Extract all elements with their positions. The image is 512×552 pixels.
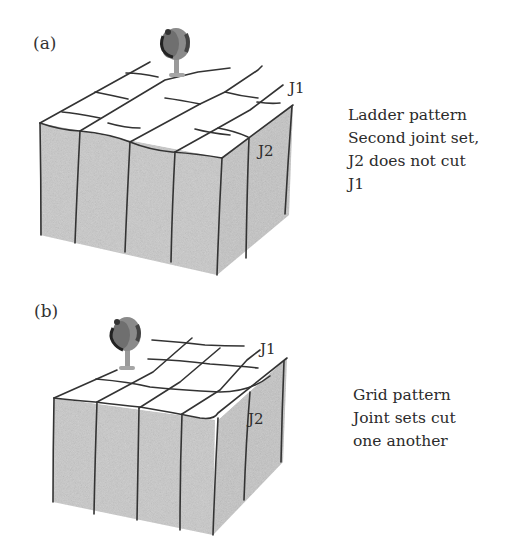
block-a: [40, 62, 293, 275]
caption-b-line-1: Grid pattern: [353, 384, 456, 407]
caption-b-line-2: Joint sets cut: [353, 407, 456, 430]
panel-label-a: (a): [33, 33, 56, 53]
caption-b-line-3: one another: [353, 430, 456, 453]
caption-a: Ladder pattern Second joint set, J2 does…: [348, 104, 479, 196]
caption-b: Grid pattern Joint sets cut one another: [353, 384, 456, 453]
caption-a-line-3: J2 does not cut: [348, 150, 479, 173]
joint-label-j2-a: J2: [258, 142, 274, 160]
block-b: [53, 338, 287, 535]
joint-label-j1-b: J1: [260, 340, 276, 358]
joint-label-j2-b: J2: [248, 410, 264, 428]
panel-label-b: (b): [34, 301, 58, 321]
joint-label-j1-a: J1: [289, 79, 305, 97]
caption-a-line-1: Ladder pattern: [348, 104, 479, 127]
block-b-front-face: [53, 398, 215, 535]
joint-pattern-diagram: [0, 0, 512, 552]
caption-a-line-4: J1: [348, 173, 479, 196]
caption-a-line-2: Second joint set,: [348, 127, 479, 150]
